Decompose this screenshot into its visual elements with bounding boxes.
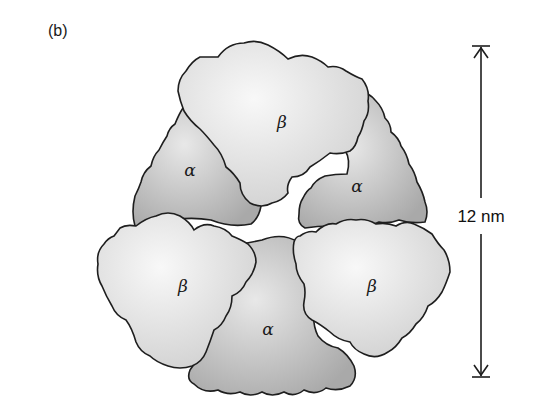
scale-bar: 12 nm bbox=[457, 46, 504, 377]
scale-bar-label: 12 nm bbox=[457, 207, 504, 226]
atp-synthase-hexamer-diagram: α α α β β β 12 nm bbox=[0, 0, 543, 400]
svg-text:α: α bbox=[262, 319, 274, 339]
svg-text:β: β bbox=[366, 276, 377, 296]
svg-text:β: β bbox=[276, 112, 287, 132]
svg-text:β: β bbox=[177, 276, 188, 296]
svg-text:α: α bbox=[184, 160, 196, 180]
svg-text:α: α bbox=[351, 176, 363, 196]
